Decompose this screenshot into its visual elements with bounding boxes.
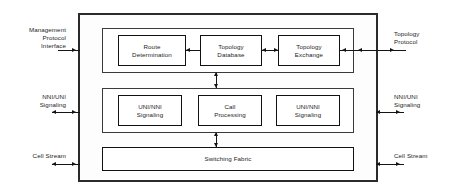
route-determination-label: Route Determination — [132, 43, 172, 59]
switching-fabric[interactable]: Switching Fabric — [102, 147, 354, 171]
switching-fabric-label: Switching Fabric — [205, 155, 252, 163]
management-protocol-interface-label: Management Protocol Interface — [8, 26, 66, 50]
topology-protocol-label: Topology Protocol — [394, 30, 452, 46]
nni-uni-signaling-right-arrow-out — [396, 110, 400, 114]
management-protocol-interface-arrow — [72, 48, 76, 52]
cell-stream-right-arrow-in — [376, 162, 380, 166]
management-protocol-interface-line — [58, 50, 80, 51]
uni-nni-signaling-left-label: UNI/NNI Signaling — [137, 103, 163, 119]
routing-to-signaling-arrow-up — [214, 72, 218, 76]
cell-stream-left-arrow-out — [52, 162, 56, 166]
diagram-canvas: Route Determination Topology Database To… — [0, 0, 456, 192]
call-processing[interactable]: Call Processing — [198, 95, 262, 126]
nni-uni-signaling-right-label: NNI/UNI Signaling — [394, 93, 452, 109]
topology-protocol-line — [340, 50, 406, 51]
topology-exchange[interactable]: Topology Exchange — [278, 35, 340, 66]
route-to-topology-db-arrow — [186, 48, 190, 52]
uni-nni-signaling-left[interactable]: UNI/NNI Signaling — [118, 95, 182, 126]
routing-to-signaling-arrow-down — [214, 84, 218, 88]
cell-stream-left-arrow-in — [72, 162, 76, 166]
signaling-to-switching-arrow-up — [214, 132, 218, 136]
topology-database-label: Topology Database — [217, 43, 244, 59]
uni-nni-signaling-right[interactable]: UNI/NNI Signaling — [276, 95, 340, 126]
topology-protocol-arrow-mid — [358, 48, 362, 52]
cell-stream-right-label: Cell Stream — [394, 152, 452, 160]
topology-database[interactable]: Topology Database — [200, 35, 262, 66]
topology-exchange-label: Topology Exchange — [295, 43, 323, 59]
nni-uni-signaling-left-arrow-in — [72, 110, 76, 114]
cell-stream-right-arrow-out — [396, 162, 400, 166]
topology-db-to-exchange-arrow-left — [262, 48, 266, 52]
nni-uni-signaling-left-label: NNI/UNI Signaling — [8, 93, 66, 109]
call-processing-label: Call Processing — [214, 103, 246, 119]
route-determination[interactable]: Route Determination — [118, 35, 186, 66]
topology-protocol-arrow-out — [390, 48, 394, 52]
uni-nni-signaling-right-label: UNI/NNI Signaling — [295, 103, 321, 119]
cell-stream-left-label: Cell Stream — [8, 152, 66, 160]
topology-protocol-arrow-in — [342, 48, 346, 52]
nni-uni-signaling-right-arrow-in — [376, 110, 380, 114]
nni-uni-signaling-left-arrow-out — [52, 110, 56, 114]
signaling-to-switching-arrow-down — [214, 143, 218, 147]
topology-db-to-exchange-arrow-right — [274, 48, 278, 52]
